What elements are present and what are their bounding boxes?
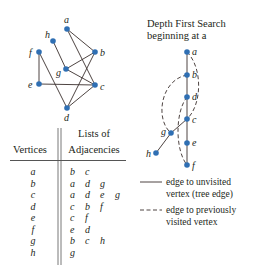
node-f <box>36 49 42 55</box>
table-rows: a b c b a d g c a d e g d c b f e c f f … <box>31 166 121 258</box>
back-edge-a-c <box>187 52 199 119</box>
edge-a-c <box>67 29 95 85</box>
edge-h-g <box>53 41 66 69</box>
table-vertex: g <box>31 235 36 246</box>
adjacency-table: Lists of Vertices Adjacencies a b c b a … <box>10 128 126 265</box>
table-adj: a <box>70 189 75 200</box>
label-f: f <box>29 47 33 58</box>
table-adj: g <box>100 178 105 189</box>
edge-e-c <box>39 84 95 85</box>
node-g <box>63 66 69 72</box>
dfs-node-d <box>184 94 190 100</box>
legend-dashed-label-1: edge to previously <box>166 205 236 215</box>
label-a: a <box>64 14 69 25</box>
label-b: b <box>100 47 105 58</box>
dfs-label-e: e <box>192 137 197 148</box>
node-c <box>92 82 98 88</box>
node-b <box>92 49 98 55</box>
dfs-title-line1: Depth First Search <box>147 18 226 29</box>
table-adj: g <box>115 189 120 200</box>
legend-dashed-label-2: visited vertex <box>166 217 218 227</box>
back-edge-d-f <box>178 97 187 165</box>
node-e <box>36 81 42 87</box>
dfs-node-b <box>184 72 190 78</box>
label-h: h <box>45 29 50 40</box>
edge-f-d <box>39 52 67 108</box>
table-adj: c <box>70 201 75 212</box>
label-g: g <box>56 67 61 78</box>
table-vertex: a <box>31 166 36 177</box>
legend: edge to unvisited vertex (tree edge) edg… <box>140 177 236 227</box>
table-vertex: d <box>31 201 37 212</box>
undirected-graph: a h f b g e c d <box>28 14 105 123</box>
table-vertex: c <box>31 189 36 200</box>
dfs-title-line2: beginning at a <box>147 30 207 41</box>
node-d <box>64 105 70 111</box>
table-vertex: e <box>31 212 36 223</box>
dfs-label-a: a <box>192 46 197 57</box>
table-adj: c <box>70 212 75 223</box>
dfs-node-e <box>184 140 190 146</box>
label-d: d <box>64 112 70 123</box>
table-adj: e <box>70 224 75 235</box>
table-adj: a <box>70 178 75 189</box>
label-e: e <box>28 79 33 90</box>
legend-solid-label-2: vertex (tree edge) <box>166 189 233 200</box>
table-vertex: b <box>31 178 36 189</box>
dfs-node-h <box>153 150 159 156</box>
dfs-label-b: b <box>192 69 197 80</box>
dfs-node-g <box>168 130 174 136</box>
table-vertex: h <box>31 247 36 258</box>
table-adj: c <box>85 166 90 177</box>
dfs-node-c <box>184 116 190 122</box>
dfs-label-d: d <box>192 91 198 102</box>
tree-edges <box>156 52 187 165</box>
table-adj: g <box>70 247 75 258</box>
header-lists-of: Lists of <box>78 128 110 139</box>
dfs-label-h: h <box>146 148 151 159</box>
table-adj: b <box>85 201 90 212</box>
node-h <box>50 38 56 44</box>
table-adj: c <box>85 235 90 246</box>
node-a <box>64 26 70 32</box>
table-adj: d <box>85 224 91 235</box>
legend-solid-label-1: edge to unvisited <box>166 177 231 187</box>
dfs-tree: Depth First Search beginning at a a b d <box>146 18 226 171</box>
dfs-figure: a h f b g e c d Lists of Vertices Adjace… <box>0 0 257 277</box>
edge-a-b <box>67 29 95 52</box>
edge-c-d <box>67 85 95 108</box>
dfs-label-f: f <box>192 160 196 171</box>
table-vertex: f <box>32 224 36 235</box>
dfs-node-f <box>184 162 190 168</box>
dfs-label-c: c <box>192 114 197 125</box>
dfs-label-g: g <box>161 126 166 137</box>
header-adjacencies: Adjacencies <box>68 144 119 155</box>
header-vertices: Vertices <box>13 144 47 155</box>
label-c: c <box>100 81 105 92</box>
table-adj: e <box>100 189 105 200</box>
table-adj: b <box>70 166 75 177</box>
dfs-node-a <box>184 49 190 55</box>
tree-edge-c-g <box>171 119 187 133</box>
table-adj: d <box>85 178 91 189</box>
table-adj: h <box>100 235 105 246</box>
table-adj: f <box>100 201 104 212</box>
table-adj: f <box>85 212 89 223</box>
table-adj: b <box>70 235 75 246</box>
table-adj: d <box>85 189 91 200</box>
